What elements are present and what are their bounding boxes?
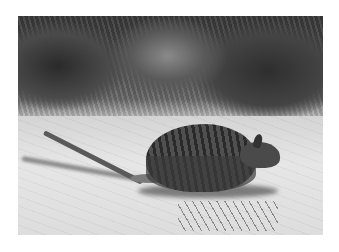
vegetation-background [18, 16, 323, 116]
photograph [18, 16, 323, 235]
animal-body-shade [146, 156, 256, 192]
twigs-debris [178, 201, 278, 231]
